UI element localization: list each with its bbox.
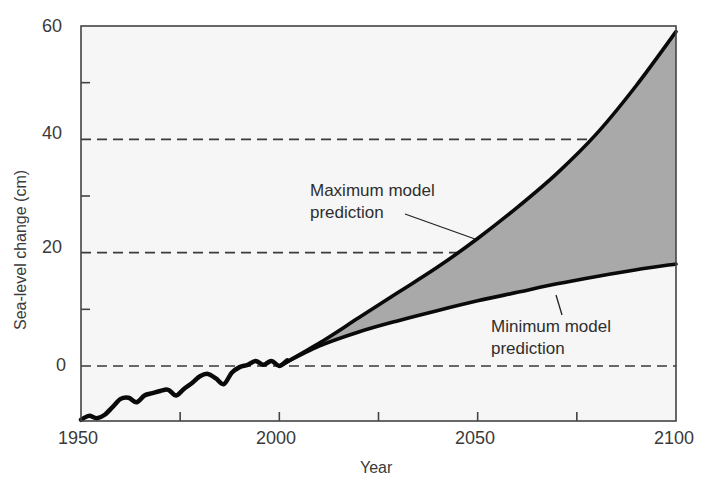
x-axis-title: Year (360, 459, 392, 477)
max-annotation-line2: prediction (310, 202, 435, 224)
x-tick-2050: 2050 (455, 428, 495, 449)
y-tick-40: 40 (42, 123, 62, 144)
min-annotation-line2: prediction (491, 338, 611, 360)
y-tick-20: 20 (42, 237, 62, 258)
y-axis-title: Sea-level change (cm) (12, 170, 30, 330)
x-tick-2000: 2000 (256, 428, 296, 449)
y-tick-0: 0 (56, 355, 66, 376)
y-tick-60: 60 (42, 16, 62, 37)
min-prediction-annotation: Minimum model prediction (491, 316, 611, 360)
x-tick-1950: 1950 (58, 428, 98, 449)
max-prediction-annotation: Maximum model prediction (310, 180, 435, 224)
min-annotation-line1: Minimum model (491, 316, 611, 338)
x-tick-2100: 2100 (654, 428, 694, 449)
max-annotation-line1: Maximum model (310, 180, 435, 202)
chart-canvas (0, 0, 711, 491)
